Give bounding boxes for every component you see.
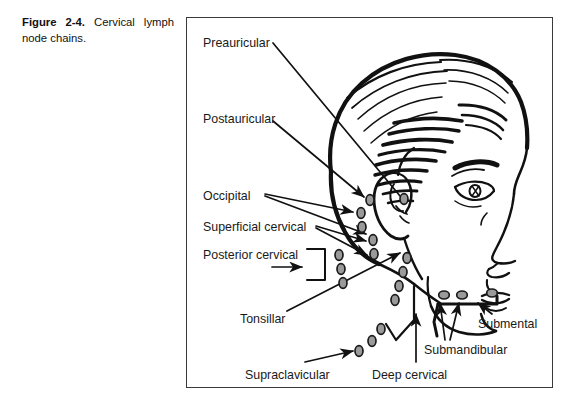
node-preauricular: [400, 194, 408, 205]
label-preauricular: Preauricular: [203, 37, 270, 50]
node-tonsillar-1: [403, 253, 411, 264]
label-postauricular: Postauricular: [203, 113, 275, 126]
node-posterior-cervical-3: [339, 278, 347, 289]
node-submandibular-2: [457, 291, 468, 299]
node-postauricular: [366, 195, 374, 206]
node-submental: [487, 289, 498, 297]
node-supraclavicular-1: [355, 346, 363, 357]
posterior-cervical-bracket: [307, 249, 325, 280]
leader-supraclavicular: [305, 351, 353, 362]
node-tonsillar-2: [399, 267, 407, 278]
node-superficial-cervical-2: [370, 249, 378, 260]
node-supraclavicular-3: [377, 324, 385, 335]
eye-and-brow: [452, 162, 497, 225]
label-submental: Submental: [478, 318, 537, 331]
label-submandibular: Submandibular: [424, 344, 507, 357]
hair-ink-strokes: [347, 60, 512, 203]
node-supraclavicular-2: [368, 336, 376, 347]
leader-occipital: [265, 194, 353, 212]
node-tonsillar-4: [391, 295, 399, 306]
node-posterior-cervical-2: [337, 264, 345, 275]
figure-page: Figure 2-4. Cervical lymph node chains.: [0, 0, 572, 412]
leader-submandibular-b: [450, 303, 459, 340]
label-posterior-cervical: Posterior cervical: [203, 249, 298, 262]
label-superficial-cervical: Superficial cervical: [203, 221, 306, 234]
label-deep-cervical: Deep cervical: [372, 369, 447, 382]
node-occipital-2: [358, 222, 366, 233]
label-occipital: Occipital: [203, 190, 251, 203]
supraclavicular-chain-line: [386, 286, 414, 340]
leader-postauricular: [273, 121, 364, 197]
node-tonsillar-3: [395, 281, 403, 292]
node-occipital-1: [357, 208, 365, 219]
label-tonsillar: Tonsillar: [240, 313, 285, 326]
label-supraclavicular: Supraclavicular: [245, 369, 330, 382]
node-submandibular-1: [439, 291, 450, 299]
node-superficial-cervical-1: [369, 235, 377, 246]
node-posterior-cervical-1: [335, 250, 343, 261]
